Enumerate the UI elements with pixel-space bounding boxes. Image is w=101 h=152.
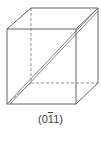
miller-index-caption: (011) [0, 113, 101, 125]
cube-diagram [0, 0, 101, 110]
miller-plane [7, 8, 98, 104]
